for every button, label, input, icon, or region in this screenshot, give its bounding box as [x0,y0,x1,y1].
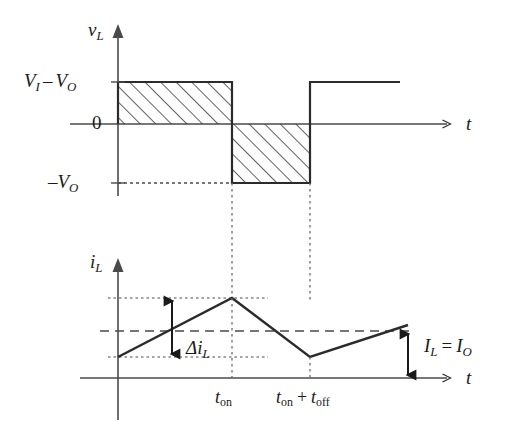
voltage-axis-label: vL [88,20,104,43]
voltage-block-negative [232,124,310,183]
average-current-label: IL=IO [424,336,472,359]
current-time-axis-label: t [466,368,471,387]
current-y-axis [113,258,124,420]
voltage-zero-level-label: 0 [92,113,102,132]
current-waveform [118,298,408,357]
voltage-low-level-label: –VO [48,172,78,195]
waveform-figure: vL VI–VO 0 –VO t iL ΔiL IL=IO ton ton+to… [0,0,505,432]
voltage-time-axis-label: t [466,114,471,133]
waveform-canvas [0,0,505,432]
voltage-high-level-label: VI–VO [24,71,76,94]
tick-label-ton-plus-toff: ton+toff [276,388,330,409]
ripple-current-label: ΔiL [186,338,210,361]
current-axis-label: iL [90,252,102,275]
tick-label-ton: ton [215,388,232,409]
voltage-block-positive [118,82,232,124]
